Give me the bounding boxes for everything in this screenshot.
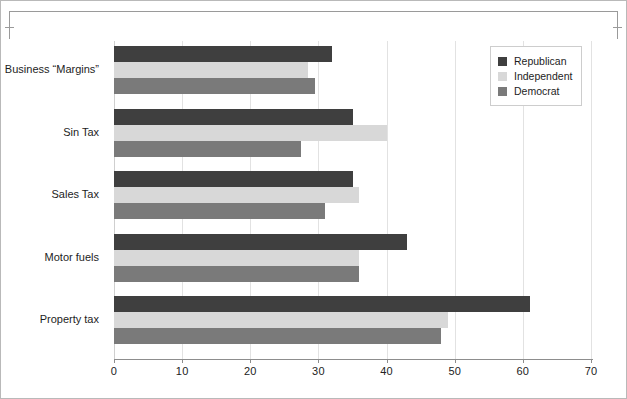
tick-label-50: 50 [435, 365, 475, 377]
bar-independent-3 [114, 250, 359, 266]
legend-item-democrat[interactable]: Democrat [498, 84, 572, 98]
bar-democrat-3 [114, 266, 359, 282]
tick-mark-60 [523, 359, 524, 363]
category-label-2: Sales Tax [0, 188, 99, 200]
legend-item-independent[interactable]: Independent [498, 69, 572, 83]
tick-label-60: 60 [503, 365, 543, 377]
chart-legend[interactable]: RepublicanIndependentDemocrat [490, 46, 582, 106]
legend-swatch-icon-democrat [498, 87, 507, 96]
top-bracket-left-cap [5, 27, 14, 28]
bar-democrat-1 [114, 141, 301, 157]
bar-republican-2 [114, 171, 353, 187]
category-label-1: Sin Tax [0, 126, 99, 138]
bar-democrat-0 [114, 78, 315, 94]
tick-mark-10 [182, 359, 183, 363]
tick-label-10: 10 [162, 365, 202, 377]
tick-mark-0 [114, 359, 115, 363]
category-label-0: Business “Margins” [0, 63, 99, 75]
legend-label: Democrat [514, 85, 560, 97]
bar-republican-0 [114, 46, 332, 62]
bar-republican-1 [114, 109, 353, 125]
gridline-70 [591, 41, 592, 359]
tick-mark-70 [591, 359, 592, 363]
legend-label: Republican [514, 55, 567, 67]
top-bracket-decoration [9, 11, 618, 39]
bar-republican-3 [114, 234, 407, 250]
bar-republican-4 [114, 296, 530, 312]
bar-democrat-2 [114, 203, 325, 219]
top-bracket-right-cap [613, 27, 622, 28]
tick-mark-50 [455, 359, 456, 363]
category-label-4: Property tax [0, 313, 99, 325]
bar-independent-0 [114, 62, 308, 78]
bar-independent-2 [114, 187, 359, 203]
x-axis-line [114, 359, 593, 360]
legend-swatch-icon-republican [498, 57, 507, 66]
tick-mark-30 [318, 359, 319, 363]
legend-swatch-icon-independent [498, 72, 507, 81]
bar-independent-1 [114, 125, 387, 141]
tick-label-0: 0 [94, 365, 134, 377]
legend-label: Independent [514, 70, 572, 82]
bar-independent-4 [114, 312, 448, 328]
category-label-3: Motor fuels [0, 251, 99, 263]
tick-label-70: 70 [571, 365, 611, 377]
tick-label-30: 30 [298, 365, 338, 377]
tick-mark-40 [387, 359, 388, 363]
tick-label-20: 20 [230, 365, 270, 377]
tick-label-40: 40 [367, 365, 407, 377]
bar-democrat-4 [114, 328, 441, 344]
chart-figure: 010203040506070 Business “Margins”Sin Ta… [0, 0, 627, 399]
legend-item-republican[interactable]: Republican [498, 54, 572, 68]
tick-mark-20 [250, 359, 251, 363]
